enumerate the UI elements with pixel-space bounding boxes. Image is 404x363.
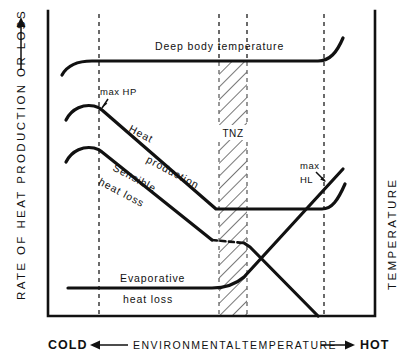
tnz-label: TNZ: [222, 128, 243, 139]
chart-canvas: TNZ Deep bo: [0, 0, 404, 363]
annotation-max-hp: max HP: [100, 86, 137, 108]
max-hl-label-line1: max: [300, 160, 319, 171]
x-axis-hot-label: HOT: [360, 338, 389, 352]
svg-text:heat loss: heat loss: [123, 293, 173, 305]
annotation-max-hl: max HL: [300, 160, 326, 185]
thermoneutral-zone-band: TNZ: [214, 62, 252, 316]
x-axis-middle-label-1: ENVIRONMENTAL: [133, 339, 242, 351]
max-hl-label-line2: HL: [300, 174, 313, 185]
sensible-heat-loss-right: [244, 243, 318, 316]
curve-sensible-heat-loss: [66, 148, 318, 316]
x-axis-label-group: COLD ENVIRONMENTAL TEMPERATURE HOT: [48, 338, 389, 352]
label-sensible-heat-loss: Sensible heat loss: [97, 158, 159, 210]
plot-frame: [48, 11, 375, 316]
svg-text:Evaporative: Evaporative: [120, 272, 185, 284]
right-axis-label: TEMPERATURE: [386, 178, 398, 290]
x-axis-left-arrow-head: [90, 341, 100, 350]
thermoregulation-figure: TNZ Deep bo: [0, 0, 404, 363]
axes-lines: [48, 11, 375, 316]
max-hp-label: max HP: [100, 86, 137, 97]
label-deep-body-temperature: Deep body temperature: [155, 40, 284, 52]
x-axis-right-arrow-head: [345, 341, 355, 350]
svg-text:Heat: Heat: [127, 122, 155, 145]
vertical-guide-lines: [99, 14, 324, 316]
x-axis-cold-label: COLD: [48, 338, 87, 352]
y-axis-label-group: RATE OF HEAT PRODUCTION OR LOSS: [15, 9, 27, 300]
